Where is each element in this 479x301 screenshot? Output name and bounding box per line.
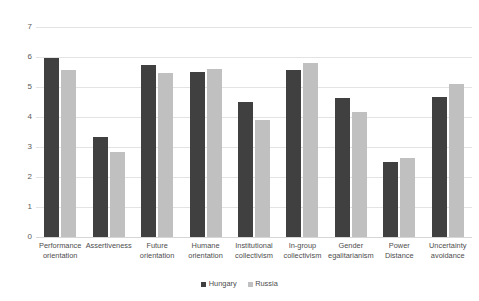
x-label-line1: In-group xyxy=(279,241,325,251)
bar-hungary-assertiveness xyxy=(93,137,108,237)
bar-russia-future-orientation xyxy=(158,73,173,237)
bar-groups xyxy=(36,27,472,237)
y-tick-label: 6 xyxy=(14,53,32,61)
bar-hungary-performance-orientation xyxy=(44,58,59,237)
bar-russia-performance-orientation xyxy=(61,70,76,237)
bar-russia-power-distance xyxy=(400,158,415,237)
bar-group-assertiveness xyxy=(84,27,132,237)
bar-group-gender-egalitarianism xyxy=(327,27,375,237)
bar-chart: 7 6 5 4 3 2 1 0 xyxy=(0,0,479,301)
legend-label-hungary: Hungary xyxy=(209,280,237,288)
bar-russia-uncertainty-avoidance xyxy=(449,84,464,237)
bar-hungary-in-group-collectivism xyxy=(286,70,301,237)
bar-russia-in-group-collectivism xyxy=(303,63,318,237)
gridline-0 xyxy=(36,237,472,238)
x-label-line2: collectivism xyxy=(279,251,325,261)
chart-legend: Hungary Russia xyxy=(0,280,479,288)
bar-group-humane-orientation xyxy=(181,27,229,237)
x-label-line2: collectivism xyxy=(231,251,277,261)
x-label-line1: Gender xyxy=(328,241,374,251)
bar-hungary-humane-orientation xyxy=(190,72,205,237)
bar-hungary-institutional-collectivism xyxy=(238,102,253,237)
x-label-line1: Performance xyxy=(37,241,83,251)
x-label-line2: orientation xyxy=(37,251,83,261)
y-tick-label: 1 xyxy=(14,203,32,211)
bar-hungary-gender-egalitarianism xyxy=(335,98,350,237)
x-label-institutional-collectivism: Institutional collectivism xyxy=(230,241,278,275)
bar-hungary-power-distance xyxy=(383,162,398,237)
bar-group-future-orientation xyxy=(133,27,181,237)
x-label-line2: orientation xyxy=(182,251,228,261)
x-label-gender-egalitarianism: Gender egalitarianism xyxy=(327,241,375,275)
x-label-performance-orientation: Performance orientation xyxy=(36,241,84,275)
y-tick-label: 5 xyxy=(14,83,32,91)
y-tick-label: 4 xyxy=(14,113,32,121)
bar-hungary-uncertainty-avoidance xyxy=(432,97,447,237)
x-label-line2: orientation xyxy=(134,251,180,261)
bar-russia-gender-egalitarianism xyxy=(352,112,367,237)
bar-russia-humane-orientation xyxy=(207,69,222,237)
x-label-line1: Uncertainty xyxy=(425,241,471,251)
legend-swatch-icon-russia xyxy=(248,282,253,287)
bar-group-uncertainty-avoidance xyxy=(424,27,472,237)
x-label-line1: Power Distance xyxy=(376,241,422,260)
bar-group-in-group-collectivism xyxy=(278,27,326,237)
x-label-line2: avoidance xyxy=(425,251,471,261)
legend-label-russia: Russia xyxy=(255,280,278,288)
bar-group-power-distance xyxy=(375,27,423,237)
bar-russia-institutional-collectivism xyxy=(255,120,270,237)
x-axis-labels: Performance orientation Assertiveness Fu… xyxy=(36,241,472,275)
legend-item-russia[interactable]: Russia xyxy=(248,280,278,288)
x-label-assertiveness: Assertiveness xyxy=(84,241,132,275)
x-label-line1: Institutional xyxy=(231,241,277,251)
y-tick-label: 7 xyxy=(14,23,32,31)
x-label-line1: Humane xyxy=(182,241,228,251)
bar-group-institutional-collectivism xyxy=(230,27,278,237)
x-label-in-group-collectivism: In-group collectivism xyxy=(278,241,326,275)
x-label-future-orientation: Future orientation xyxy=(133,241,181,275)
bar-hungary-future-orientation xyxy=(141,65,156,237)
x-label-power-distance: Power Distance xyxy=(375,241,423,275)
y-tick-label: 0 xyxy=(14,233,32,241)
x-label-line1: Future xyxy=(134,241,180,251)
x-label-uncertainty-avoidance: Uncertainty avoidance xyxy=(424,241,472,275)
bar-russia-assertiveness xyxy=(110,152,125,237)
y-tick-label: 2 xyxy=(14,173,32,181)
x-label-line2: egalitarianism xyxy=(328,251,374,261)
legend-item-hungary[interactable]: Hungary xyxy=(201,280,236,288)
bar-group-performance-orientation xyxy=(36,27,84,237)
legend-swatch-icon-hungary xyxy=(201,282,206,287)
y-tick-label: 3 xyxy=(14,143,32,151)
x-label-humane-orientation: Humane orientation xyxy=(181,241,229,275)
x-label-line1: Assertiveness xyxy=(85,241,131,251)
